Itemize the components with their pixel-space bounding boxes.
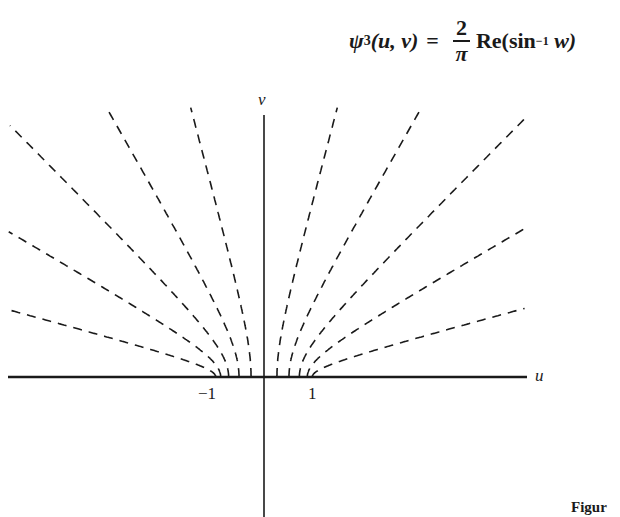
- hyperbola-diagram: [0, 0, 620, 517]
- u-axis-label: u: [535, 366, 544, 386]
- level-curve: [10, 126, 229, 378]
- level-curve: [289, 107, 422, 377]
- level-curve: [106, 107, 239, 377]
- level-curve: [191, 108, 251, 377]
- tick-label-pos-one: 1: [308, 384, 317, 404]
- v-axis-label: v: [258, 90, 266, 110]
- level-curve: [277, 108, 337, 377]
- level-curve: [312, 308, 524, 377]
- level-curve: [9, 310, 216, 377]
- level-curve: [307, 227, 527, 377]
- level-curves: [9, 107, 527, 377]
- tick-label-neg-one: −1: [198, 384, 216, 404]
- figure-caption: Figur: [571, 499, 607, 516]
